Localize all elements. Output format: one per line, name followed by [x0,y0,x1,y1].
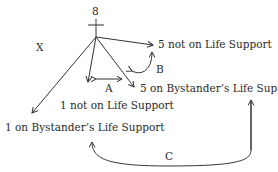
edge-to-five-not [96,37,153,45]
relation-a-label: A [105,83,113,94]
node-one-not: 1 not on Life Support [60,100,174,111]
node-five-on: 5 on Bystander’s Life Support [140,83,278,94]
edge-to-one-not [88,37,96,82]
diagram-canvas: 8 X 5 not on Life Support 5 on Bystander… [0,0,278,172]
node-one-on: 1 on Bystander’s Life Support [5,122,164,133]
side-label-x: X [36,42,43,53]
relation-b-label: B [156,64,164,75]
relation-b-arrow [132,52,152,73]
node-five-not: 5 not on Life Support [158,39,272,50]
root-label: 8 [92,6,99,17]
relation-c-label: C [165,151,173,162]
